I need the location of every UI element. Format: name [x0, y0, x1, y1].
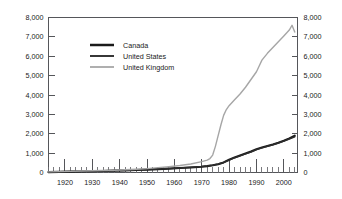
data-series-group — [49, 25, 295, 172]
plot-frame — [49, 18, 298, 173]
y-axis-left-ticks — [49, 18, 55, 173]
y-axis-left-tick-label: 1,000 — [26, 149, 44, 158]
x-axis-tick-label: 1930 — [84, 178, 100, 187]
y-axis-right-ticks — [292, 18, 298, 173]
y-axis-left-tick-label: 3,000 — [26, 110, 44, 119]
x-axis-tick-label: 1970 — [194, 178, 210, 187]
y-axis-left-tick-label: 2,000 — [26, 129, 44, 138]
x-axis-tick-label: 1990 — [248, 178, 264, 187]
x-axis-tick-label: 1960 — [166, 178, 182, 187]
x-axis-tick-label: 1920 — [57, 178, 73, 187]
legend-label-canada: Canada — [123, 41, 148, 50]
y-axis-right-tick-label: 6,000 — [304, 52, 322, 61]
x-axis-tick-label: 1980 — [221, 178, 237, 187]
x-axis-labels: 192019301940195019601970198019902000 — [57, 178, 292, 187]
y-axis-left-tick-label: 0 — [40, 168, 44, 177]
y-axis-left-tick-label: 5,000 — [26, 71, 44, 80]
y-axis-right-tick-label: 2,000 — [304, 129, 322, 138]
y-axis-right-tick-label: 7,000 — [304, 32, 322, 41]
legend-label-united-kingdom: United Kingdom — [123, 63, 174, 72]
legend-label-united-states: United States — [123, 52, 167, 61]
y-axis-right-tick-label: 1,000 — [304, 149, 322, 158]
x-axis-tick-label: 1950 — [139, 178, 155, 187]
y-axis-left-tick-label: 4,000 — [26, 91, 44, 100]
y-axis-right-tick-label: 3,000 — [304, 110, 322, 119]
y-axis-right-tick-label: 4,000 — [304, 91, 322, 100]
chart-legend: CanadaUnited StatesUnited Kingdom — [90, 41, 174, 72]
y-axis-right-tick-label: 0 — [304, 168, 308, 177]
y-axis-right-labels: 01,0002,0003,0004,0005,0006,0007,0008,00… — [304, 13, 322, 177]
y-axis-right-tick-label: 8,000 — [304, 13, 322, 22]
y-axis-left-labels: 01,0002,0003,0004,0005,0006,0007,0008,00… — [26, 13, 44, 177]
x-axis-tick-label: 1940 — [112, 178, 128, 187]
y-axis-right-tick-label: 5,000 — [304, 71, 322, 80]
y-axis-left-tick-label: 7,000 — [26, 32, 44, 41]
chart-figure: 01,0002,0003,0004,0005,0006,0007,0008,00… — [0, 0, 342, 199]
y-axis-left-tick-label: 6,000 — [26, 52, 44, 61]
x-axis-tick-label: 2000 — [276, 178, 292, 187]
y-axis-left-tick-label: 8,000 — [26, 13, 44, 22]
line-chart: 01,0002,0003,0004,0005,0006,0007,0008,00… — [0, 0, 342, 199]
